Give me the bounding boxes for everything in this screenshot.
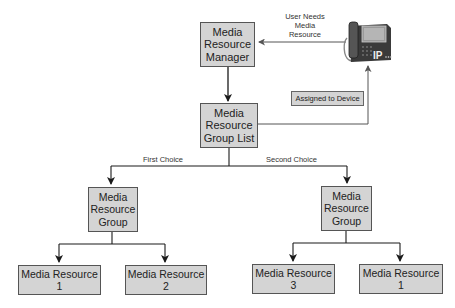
label-line: Media: [280, 21, 330, 30]
node-label-line: Group: [98, 216, 127, 229]
node-label-line: 1: [57, 280, 63, 292]
media-resource-group-right-node: Media Resource Group: [321, 186, 372, 231]
node-label-line: Media: [213, 26, 243, 39]
node-label-line: Media Resource: [128, 268, 204, 280]
node-label-line: 1: [398, 279, 404, 291]
media-resource-group-left-node: Media Resource Group: [88, 187, 138, 232]
user-needs-label: User Needs Media Resource: [280, 12, 330, 39]
node-label-line: Group: [332, 215, 361, 228]
node-label-line: Media Resource: [363, 267, 439, 279]
second-choice-label: Second Choice: [266, 155, 317, 164]
svg-text:IP: IP: [373, 50, 383, 61]
node-label-line: Resource: [204, 38, 251, 51]
media-resource-manager-node: Media Resource Manager: [200, 22, 255, 67]
assigned-to-device-label: Assigned to Device: [291, 91, 364, 106]
node-label-line: Media Resource: [21, 268, 97, 280]
node-label-line: Group List: [204, 132, 255, 145]
node-label-line: Media: [214, 107, 244, 120]
media-resource-left-2-node: Media Resource 2: [125, 265, 207, 295]
media-resource-right-2-node: Media Resource 1: [359, 264, 443, 294]
node-label-line: Media: [99, 191, 128, 204]
node-label-line: 2: [163, 280, 169, 292]
node-label-line: Media: [332, 190, 361, 203]
node-label-line: Resource: [205, 119, 252, 132]
ip-phone-icon: IP: [343, 20, 395, 64]
node-label-line: 3: [291, 279, 297, 291]
media-resource-right-1-node: Media Resource 3: [252, 264, 335, 294]
media-resource-group-list-node: Media Resource Group List: [200, 103, 258, 148]
label-line: User Needs: [280, 12, 330, 21]
label-line: Resource: [280, 30, 330, 39]
node-label-line: Resource: [324, 202, 369, 215]
media-resource-left-1-node: Media Resource 1: [18, 265, 101, 295]
node-label-line: Manager: [206, 51, 249, 64]
node-label-line: Media Resource: [255, 267, 331, 279]
first-choice-label: First Choice: [143, 155, 183, 164]
node-label-line: Resource: [91, 203, 136, 216]
